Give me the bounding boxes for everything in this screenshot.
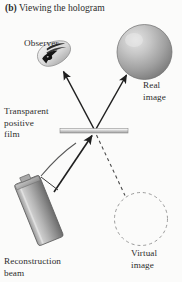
label-virtual-image-line2: image: [131, 260, 157, 272]
label-film-line3: film: [4, 129, 49, 141]
laser-cable: [41, 143, 76, 176]
label-virtual-image: Virtual image: [131, 248, 157, 271]
ray-beam-to-film: [54, 136, 92, 193]
label-real-image-line1: Real: [143, 80, 166, 92]
ray-virtual-dashed: [97, 135, 126, 196]
label-virtual-image-line1: Virtual: [131, 248, 157, 260]
label-observer-line1: Observer: [24, 38, 58, 50]
reconstruction-beam-laser: [12, 171, 63, 246]
virtual-image-circle: [115, 193, 168, 246]
label-observer: Observer: [24, 38, 58, 50]
real-image-sphere: [117, 25, 172, 80]
label-reconstruction-line2: beam: [4, 268, 61, 280]
ray-film-to-real-image: [96, 75, 127, 129]
label-film-line1: Transparent: [4, 106, 49, 118]
label-real-image-line2: image: [143, 92, 166, 104]
ray-film-to-observer: [64, 72, 95, 130]
label-transparent-positive-film: Transparent positive film: [4, 106, 49, 141]
label-film-line2: positive: [4, 118, 49, 130]
label-real-image: Real image: [143, 80, 166, 103]
transparent-positive-film: [60, 129, 128, 133]
label-reconstruction-line1: Reconstruction: [4, 256, 61, 268]
figure-viewing-the-hologram: (b) Viewing the hologram Observer Real i…: [0, 0, 182, 282]
caption-text: Viewing the hologram: [19, 2, 105, 13]
caption-label: (b): [5, 2, 17, 13]
label-reconstruction-beam: Reconstruction beam: [4, 256, 61, 279]
figure-caption: (b) Viewing the hologram: [5, 2, 105, 14]
